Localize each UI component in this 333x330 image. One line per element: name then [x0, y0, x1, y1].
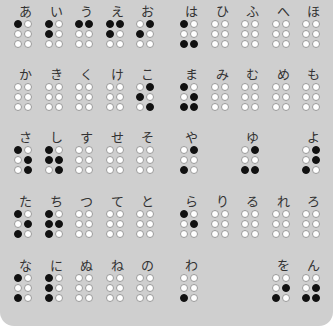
raised-dot-icon [45, 274, 53, 282]
flat-dot-icon [180, 230, 188, 238]
flat-dot-icon [24, 83, 32, 91]
kana-label: そ [130, 130, 164, 146]
flat-dot-icon [282, 230, 290, 238]
raised-dot-icon [85, 20, 93, 28]
raised-dot-icon [312, 146, 320, 154]
flat-dot-icon [251, 40, 259, 48]
flat-dot-icon [75, 230, 83, 238]
braille-dots [136, 20, 158, 48]
braille-dots [45, 210, 67, 238]
braille-dots [302, 20, 324, 48]
raised-dot-icon [55, 156, 63, 164]
kana-label: か [8, 67, 42, 83]
braille-dots [180, 146, 202, 174]
flat-dot-icon [85, 220, 93, 228]
flat-dot-icon [302, 93, 310, 101]
flat-dot-icon [282, 220, 290, 228]
flat-dot-icon [312, 40, 320, 48]
raised-dot-icon [14, 210, 22, 218]
flat-dot-icon [55, 103, 63, 111]
flat-dot-icon [302, 210, 310, 218]
flat-dot-icon [116, 83, 124, 91]
flat-dot-icon [106, 294, 114, 302]
braille-dots [45, 146, 67, 174]
flat-dot-icon [312, 20, 320, 28]
flat-dot-icon [14, 93, 22, 101]
kana-label: る [235, 194, 269, 210]
kana-label: し [39, 130, 73, 146]
braille-dots [75, 274, 97, 302]
raised-dot-icon [180, 40, 188, 48]
flat-dot-icon [146, 230, 154, 238]
flat-dot-icon [14, 220, 22, 228]
raised-dot-icon [190, 103, 198, 111]
raised-dot-icon [241, 166, 249, 174]
flat-dot-icon [106, 103, 114, 111]
flat-dot-icon [116, 30, 124, 38]
braille-cell: お [136, 4, 166, 64]
flat-dot-icon [55, 210, 63, 218]
raised-dot-icon [190, 40, 198, 48]
raised-dot-icon [55, 166, 63, 174]
flat-dot-icon [211, 220, 219, 228]
flat-dot-icon [190, 210, 198, 218]
kana-label: に [39, 258, 73, 274]
flat-dot-icon [211, 103, 219, 111]
flat-dot-icon [85, 294, 93, 302]
flat-dot-icon [75, 103, 83, 111]
braille-dots [302, 83, 324, 111]
raised-dot-icon [146, 20, 154, 28]
braille-dots [106, 20, 128, 48]
braille-dots [45, 20, 67, 48]
flat-dot-icon [106, 93, 114, 101]
flat-dot-icon [136, 166, 144, 174]
flat-dot-icon [251, 230, 259, 238]
flat-dot-icon [136, 156, 144, 164]
flat-dot-icon [75, 166, 83, 174]
flat-dot-icon [190, 156, 198, 164]
flat-dot-icon [75, 220, 83, 228]
flat-dot-icon [55, 230, 63, 238]
flat-dot-icon [24, 20, 32, 28]
flat-dot-icon [312, 93, 320, 101]
flat-dot-icon [282, 274, 290, 282]
flat-dot-icon [221, 210, 229, 218]
kana-label: れ [266, 194, 300, 210]
braille-dots [14, 20, 36, 48]
flat-dot-icon [106, 156, 114, 164]
flat-dot-icon [24, 284, 32, 292]
flat-dot-icon [24, 294, 32, 302]
flat-dot-icon [221, 103, 229, 111]
braille-dots [14, 83, 36, 111]
flat-dot-icon [312, 83, 320, 91]
kana-label: や [174, 130, 208, 146]
flat-dot-icon [116, 274, 124, 282]
kana-label: な [8, 258, 42, 274]
raised-dot-icon [146, 103, 154, 111]
flat-dot-icon [24, 40, 32, 48]
braille-dots [136, 274, 158, 302]
braille-dots [45, 83, 67, 111]
flat-dot-icon [14, 103, 22, 111]
flat-dot-icon [136, 20, 144, 28]
braille-dots [136, 83, 158, 111]
flat-dot-icon [241, 230, 249, 238]
flat-dot-icon [146, 220, 154, 228]
flat-dot-icon [190, 294, 198, 302]
flat-dot-icon [85, 274, 93, 282]
raised-dot-icon [75, 20, 83, 28]
flat-dot-icon [241, 156, 249, 164]
flat-dot-icon [106, 284, 114, 292]
kana-label: く [69, 67, 103, 83]
kana-label: あ [8, 4, 42, 20]
flat-dot-icon [251, 30, 259, 38]
braille-dots [14, 146, 36, 174]
kana-label: ね [100, 258, 134, 274]
kana-label: む [235, 67, 269, 83]
flat-dot-icon [241, 103, 249, 111]
flat-dot-icon [241, 30, 249, 38]
flat-dot-icon [24, 210, 32, 218]
kana-label: り [205, 194, 239, 210]
flat-dot-icon [45, 40, 53, 48]
flat-dot-icon [302, 220, 310, 228]
